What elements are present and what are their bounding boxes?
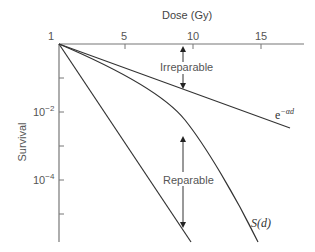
x-axis-title: Dose (Gy) bbox=[162, 9, 212, 21]
series-s-of-d bbox=[59, 44, 258, 242]
series-steep-line bbox=[59, 44, 191, 242]
y-tick-label-1e-2: 10−2 bbox=[33, 104, 54, 118]
arrowhead-up-icon bbox=[180, 46, 186, 52]
annotation-irreparable: Irreparable bbox=[160, 61, 213, 73]
arrowhead-up-icon bbox=[180, 136, 186, 142]
label-s-of-d: S(d) bbox=[251, 216, 271, 231]
x-tick-label-5: 5 bbox=[121, 30, 127, 42]
x-tick-label-10: 10 bbox=[187, 30, 199, 42]
label-exp-alpha-d: e−αd bbox=[275, 107, 294, 123]
x-tick-label-15: 15 bbox=[255, 30, 267, 42]
x-tick-label-0: 1 bbox=[48, 30, 54, 42]
series-exp-alpha-d bbox=[59, 44, 290, 128]
y-tick-label-1e-4: 10−4 bbox=[33, 172, 54, 186]
y-axis-title: Survival bbox=[16, 122, 28, 161]
annotation-reparable: Reparable bbox=[163, 174, 214, 186]
